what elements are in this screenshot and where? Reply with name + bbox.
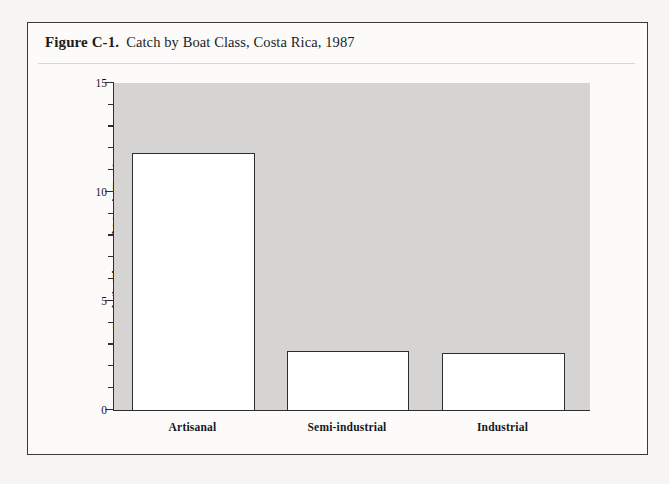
y-axis-major-tick xyxy=(105,300,114,301)
bar xyxy=(132,153,255,410)
y-axis-minor-tick xyxy=(108,234,114,235)
y-axis-minor-tick xyxy=(108,147,114,148)
y-axis-major-tick xyxy=(105,82,114,83)
y-axis-minor-tick xyxy=(108,213,114,214)
x-axis-category-label: Industrial xyxy=(477,421,528,433)
y-axis-minor-tick xyxy=(108,343,114,344)
plot-area xyxy=(113,83,590,411)
y-axis-tick-label: 15 xyxy=(96,77,108,89)
y-axis-minor-tick xyxy=(108,365,114,366)
bar xyxy=(442,353,565,410)
bar-chart: Catch (in Thousand Metric Tons) 051015 A… xyxy=(28,23,649,456)
y-axis-minor-tick xyxy=(108,256,114,257)
y-axis-tick-label: 10 xyxy=(96,186,108,198)
y-axis-minor-tick xyxy=(108,387,114,388)
y-axis-title-container: Catch (in Thousand Metric Tons) xyxy=(58,83,78,410)
y-axis-minor-tick xyxy=(108,278,114,279)
y-axis-minor-tick xyxy=(108,125,114,126)
y-axis-major-tick xyxy=(105,409,114,410)
y-axis-minor-tick xyxy=(108,104,114,105)
figure-panel: Figure C-1.Catch by Boat Class, Costa Ri… xyxy=(27,22,648,455)
bar xyxy=(287,351,409,410)
y-axis-minor-tick xyxy=(108,169,114,170)
y-axis-tick-label: 5 xyxy=(101,295,107,307)
y-axis-major-tick xyxy=(105,191,114,192)
y-axis-tick-label: 0 xyxy=(101,404,107,416)
x-axis-category-label: Artisanal xyxy=(169,421,217,433)
y-axis-tick-labels: 051015 xyxy=(83,83,107,410)
y-axis-minor-tick xyxy=(108,322,114,323)
x-axis-category-label: Semi-industrial xyxy=(307,421,386,433)
